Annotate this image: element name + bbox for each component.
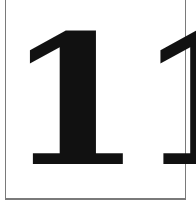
number-card-frame: 11 [5, 0, 186, 200]
chapter-number: 11 [6, 10, 185, 190]
